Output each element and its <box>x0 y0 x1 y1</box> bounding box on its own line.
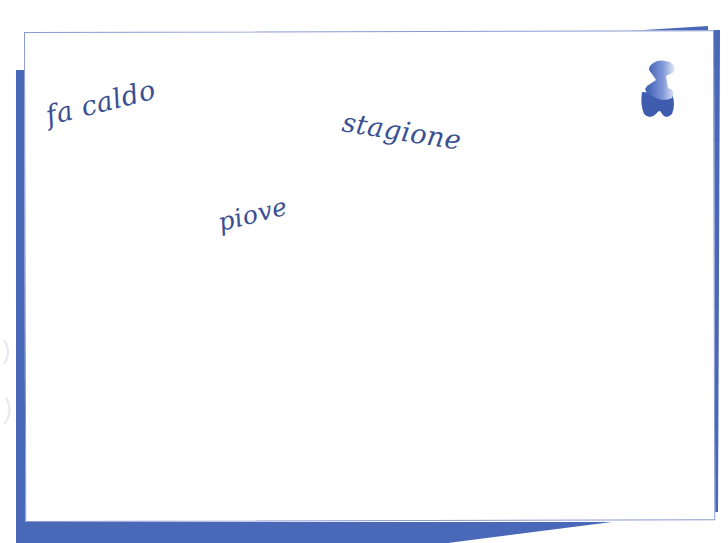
pushpin-icon <box>636 58 684 122</box>
